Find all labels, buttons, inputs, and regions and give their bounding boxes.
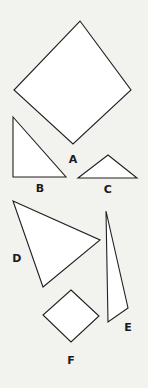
shape-label-d: D xyxy=(12,253,21,264)
shape-label-f: F xyxy=(67,355,75,366)
shapes-figure: A B C D E F xyxy=(0,0,148,388)
shape-label-b: B xyxy=(36,183,45,194)
shape-label-c: C xyxy=(104,184,112,195)
shape-group-f xyxy=(43,290,99,342)
shape-e-polygon[interactable] xyxy=(106,211,128,322)
shape-d-polygon[interactable] xyxy=(13,201,100,287)
shape-c-polygon[interactable] xyxy=(78,155,137,178)
shape-a-polygon[interactable] xyxy=(14,21,131,144)
shape-group-a xyxy=(14,21,131,144)
shape-group-d xyxy=(13,201,100,287)
shape-group-e xyxy=(106,211,128,322)
shape-label-a: A xyxy=(69,154,78,165)
shape-group-c xyxy=(78,155,137,178)
shape-f-polygon[interactable] xyxy=(43,290,99,342)
shape-label-e: E xyxy=(124,322,132,333)
